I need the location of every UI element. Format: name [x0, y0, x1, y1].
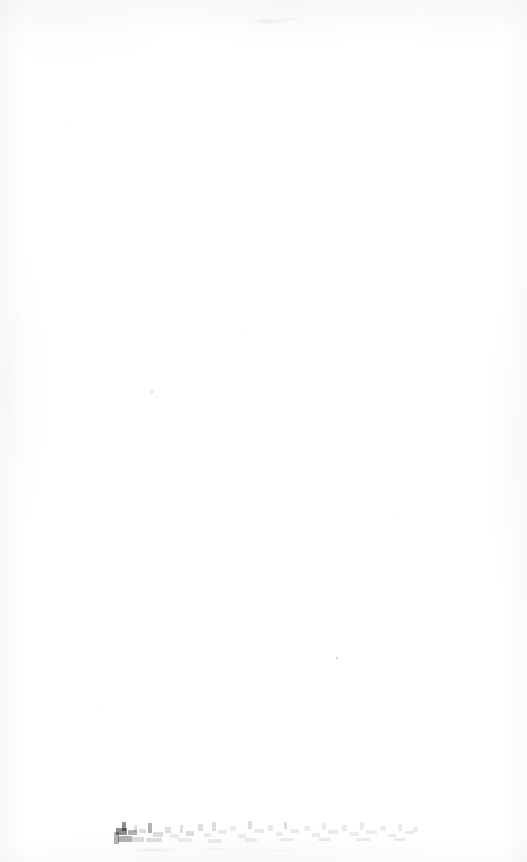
- ink-fragment: [218, 830, 227, 834]
- ink-fragment: [360, 822, 364, 830]
- ink-fragment: [398, 824, 402, 831]
- ink-fragment: [128, 830, 137, 835]
- ink-fragment: [170, 834, 179, 838]
- ink-fragment: [116, 828, 127, 835]
- ink-fragment: [268, 825, 273, 831]
- ink-fragment: [276, 832, 283, 836]
- dust-speck: [156, 396, 157, 397]
- ink-fragment: [304, 826, 310, 831]
- ink-fragment: [180, 825, 183, 833]
- ink-fragment: [148, 823, 152, 833]
- ink-fragment: [342, 825, 347, 831]
- bottom-residue: [120, 846, 350, 854]
- ink-fragment: [230, 826, 236, 831]
- ink-fragment: [204, 833, 211, 837]
- ink-fragment: [350, 832, 359, 836]
- ink-fragment: [413, 827, 418, 832]
- ink-fragment: [356, 838, 371, 841]
- ink-fragment: [114, 832, 119, 844]
- ink-fragment: [139, 829, 146, 833]
- ink-fragment: [118, 836, 132, 842]
- ink-fragment: [322, 823, 326, 830]
- ink-fragment: [284, 822, 287, 829]
- ink-fragment: [366, 830, 377, 834]
- ink-fragment: [388, 834, 396, 837]
- ink-fragment: [248, 821, 252, 829]
- ink-fragment: [380, 826, 386, 831]
- ink-fragment: [245, 838, 257, 842]
- ink-fragment: [328, 830, 338, 834]
- faded-text-line: [illegible]: [108, 816, 426, 848]
- ink-fragment: [238, 834, 246, 838]
- ink-fragment: [290, 829, 299, 833]
- ink-fragment: [178, 838, 192, 842]
- ink-fragment: [134, 825, 137, 832]
- ink-fragment: [165, 827, 171, 833]
- faded-text-transcription: [illegible]: [107, 815, 108, 816]
- ink-fragment: [312, 833, 320, 837]
- ink-fragment: [198, 824, 203, 831]
- ink-fragment: [153, 832, 163, 837]
- ink-fragment: [404, 831, 414, 834]
- ink-fragment: [132, 837, 144, 842]
- ink-fragment: [318, 838, 331, 841]
- ink-fragment: [394, 838, 406, 841]
- ink-fragment: [122, 822, 126, 831]
- ink-fragment: [146, 838, 162, 842]
- dust-speck: [151, 391, 153, 393]
- dust-speck: [103, 710, 104, 711]
- ink-fragment: [212, 822, 216, 831]
- dust-speck: [66, 120, 67, 121]
- ink-fragment: [254, 829, 264, 833]
- top-smudge: [245, 14, 305, 28]
- paper-grain: [0, 0, 527, 862]
- ink-fragment: [208, 839, 221, 843]
- dust-speck: [246, 333, 247, 334]
- ink-fragment: [280, 838, 294, 841]
- scan-edge-shadow: [0, 0, 527, 862]
- dust-speck: [398, 515, 399, 516]
- ink-fragment: [186, 831, 194, 836]
- scanned-page: [illegible]: [0, 0, 527, 862]
- dust-speck: [430, 38, 431, 39]
- dust-speck: [336, 657, 338, 659]
